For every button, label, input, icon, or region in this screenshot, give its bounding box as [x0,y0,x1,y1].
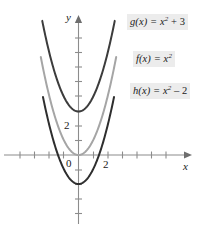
plot-canvas [0,0,208,228]
x-axis-tick-label-2: 2 [103,159,109,170]
origin-tick-label: 0 [66,158,72,169]
y-axis-arrowhead [75,15,82,23]
legend-label-g: g(x) = x2 + 3 [127,14,188,30]
axes-group [4,15,192,224]
legend-label-f-exponent: 2 [168,52,172,60]
legend-label-g-text: g(x) = x [130,16,165,27]
legend-label-h-tail: – 2 [171,85,187,96]
legend-label-g-tail: + 3 [168,16,185,27]
parabola-transformations-figure: y x 0 2 2 g(x) = x2 + 3 f(x) = x2 h(x) =… [0,0,208,228]
legend-label-f: f(x) = x2 [133,51,175,67]
legend-label-f-text: f(x) = x [136,53,168,64]
y-axis-tick-label-2: 2 [64,120,70,131]
legend-label-h-text: h(x) = x [133,85,168,96]
legend-label-h: h(x) = x2 – 2 [130,83,190,99]
y-axis-label: y [66,12,71,23]
x-axis-arrowhead [184,151,192,158]
x-axis-label: x [183,161,188,172]
